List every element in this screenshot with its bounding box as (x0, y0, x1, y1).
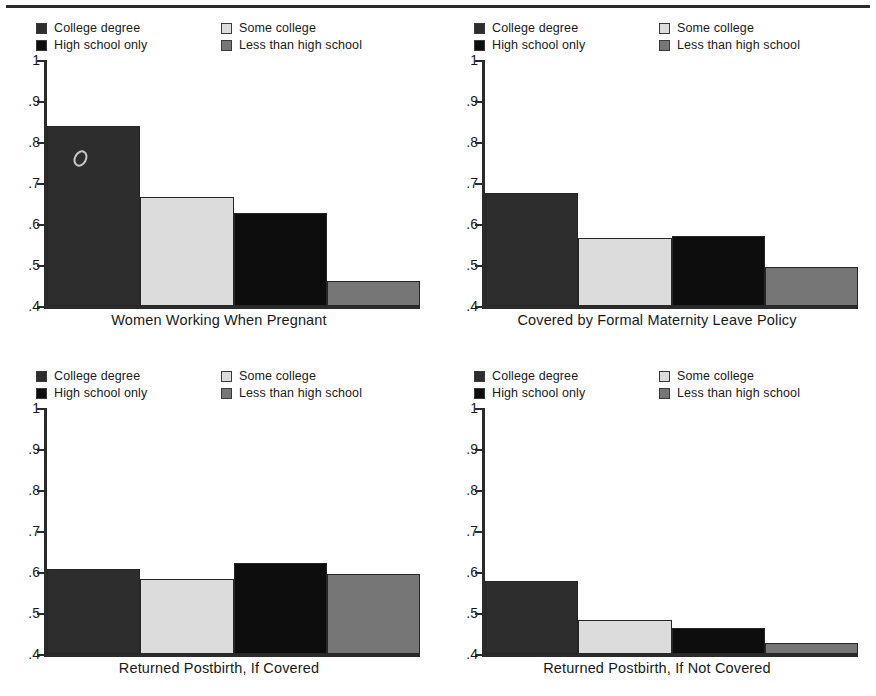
bar-group (485, 60, 858, 306)
bar (47, 569, 140, 654)
bar (765, 267, 858, 306)
y-axis-tick-mark (475, 449, 482, 451)
legend-label: Less than high school (677, 39, 800, 52)
legend-entry: High school only (474, 385, 585, 402)
legend-label: College degree (54, 370, 140, 383)
y-axis-tick-mark (475, 613, 482, 615)
legend-entry: Less than high school (221, 37, 362, 54)
legend-label: Some college (677, 370, 754, 383)
x-axis-line (482, 654, 858, 657)
legend-swatch-icon (36, 40, 47, 51)
chart-legend: College degreeHigh school onlySome colle… (36, 20, 416, 54)
y-axis-tick-mark (37, 654, 44, 656)
bar (485, 581, 578, 654)
bar-group (47, 408, 420, 654)
bar (485, 193, 578, 306)
legend-swatch-icon (221, 40, 232, 51)
bar (234, 563, 327, 654)
legend-swatch-icon (221, 388, 232, 399)
x-axis-line (482, 306, 858, 309)
legend-entry: High school only (474, 37, 585, 54)
chart-legend: College degreeHigh school onlySome colle… (36, 368, 416, 402)
legend-column-2: Some collegeLess than high school (659, 368, 800, 402)
legend-label: Less than high school (239, 387, 362, 400)
bar (765, 643, 858, 654)
y-axis-tick-mark (475, 572, 482, 574)
legend-label: Some college (239, 370, 316, 383)
y-axis-tick-mark (37, 224, 44, 226)
y-axis-tick-mark (475, 142, 482, 144)
y-axis-tick-labels: 1.9.8.7.6.5.4 (448, 60, 478, 307)
plot-area (44, 408, 420, 655)
legend-label: College degree (54, 22, 140, 35)
bar (140, 197, 233, 306)
y-axis-tick-mark (475, 306, 482, 308)
legend-swatch-icon (36, 388, 47, 399)
chart-caption: Covered by Formal Maternity Leave Policy (438, 312, 876, 328)
y-axis-tick-mark (37, 265, 44, 267)
y-axis-tick-mark (475, 183, 482, 185)
y-axis-tick-labels: 1.9.8.7.6.5.4 (10, 408, 40, 655)
legend-column-2: Some collegeLess than high school (221, 20, 362, 54)
plot-area (482, 60, 858, 307)
bar (47, 126, 140, 306)
bar (672, 236, 765, 306)
legend-column-1: College degreeHigh school only (36, 368, 147, 402)
y-axis-tick-mark (475, 265, 482, 267)
legend-label: Some college (677, 22, 754, 35)
chart-legend: College degreeHigh school onlySome colle… (474, 368, 854, 402)
chart-caption: Returned Postbirth, If Not Covered (438, 660, 876, 676)
y-axis-tick-mark (37, 60, 44, 62)
bar (672, 628, 765, 654)
legend-entry: College degree (36, 368, 147, 385)
legend-entry: High school only (36, 37, 147, 54)
legend-column-1: College degreeHigh school only (474, 20, 585, 54)
legend-swatch-icon (36, 371, 47, 382)
legend-swatch-icon (659, 40, 670, 51)
legend-swatch-icon (221, 23, 232, 34)
plot-area (44, 60, 420, 307)
x-axis-line (44, 306, 420, 309)
y-axis-tick-mark (37, 531, 44, 533)
legend-entry: Some college (221, 20, 362, 37)
legend-entry: Some college (221, 368, 362, 385)
legend-label: College degree (492, 22, 578, 35)
y-axis-tick-mark (475, 490, 482, 492)
bar-group (485, 408, 858, 654)
legend-entry: College degree (36, 20, 147, 37)
legend-column-2: Some collegeLess than high school (659, 20, 800, 54)
bar (578, 238, 671, 306)
legend-swatch-icon (474, 40, 485, 51)
legend-label: High school only (492, 39, 585, 52)
legend-entry: College degree (474, 368, 585, 385)
bar (234, 213, 327, 306)
legend-label: Less than high school (677, 387, 800, 400)
legend-entry: College degree (474, 20, 585, 37)
y-axis-tick-mark (37, 183, 44, 185)
legend-column-1: College degreeHigh school only (36, 20, 147, 54)
plot-area (482, 408, 858, 655)
legend-entry: Less than high school (659, 385, 800, 402)
bar-group (47, 60, 420, 306)
legend-swatch-icon (474, 371, 485, 382)
legend-swatch-icon (36, 23, 47, 34)
legend-entry: Some college (659, 368, 800, 385)
legend-swatch-icon (659, 388, 670, 399)
y-axis-tick-mark (37, 449, 44, 451)
legend-swatch-icon (221, 371, 232, 382)
legend-label: High school only (492, 387, 585, 400)
y-axis-tick-mark (37, 613, 44, 615)
legend-label: College degree (492, 370, 578, 383)
y-axis-tick-labels: 1.9.8.7.6.5.4 (10, 60, 40, 307)
legend-entry: Less than high school (221, 385, 362, 402)
chart-panel-top-right: College degreeHigh school onlySome colle… (438, 0, 876, 348)
y-axis-tick-labels: 1.9.8.7.6.5.4 (448, 408, 478, 655)
x-axis-line (44, 654, 420, 657)
legend-entry: Some college (659, 20, 800, 37)
y-axis-tick-mark (475, 654, 482, 656)
legend-swatch-icon (659, 371, 670, 382)
legend-column-2: Some collegeLess than high school (221, 368, 362, 402)
chart-panel-bottom-left: College degreeHigh school onlySome colle… (0, 348, 438, 696)
y-axis-tick-mark (37, 101, 44, 103)
chart-legend: College degreeHigh school onlySome colle… (474, 20, 854, 54)
